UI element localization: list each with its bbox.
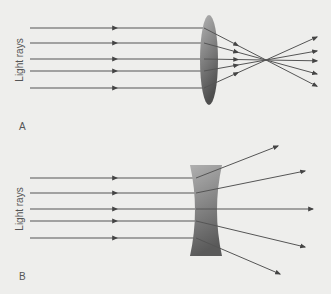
diverging-ray	[196, 146, 278, 178]
lens-diagram: Light rays A Light rays B	[0, 0, 331, 294]
diverging-ray	[266, 60, 317, 74]
diverging-ray	[266, 60, 317, 61]
diverging-ray	[266, 51, 317, 60]
diverging-ray	[266, 60, 317, 86]
diverging-ray	[266, 37, 317, 60]
light-rays-label-b: Light rays	[14, 187, 25, 230]
panel-letter-a: A	[19, 121, 26, 132]
panel-b: Light rays B	[14, 146, 313, 282]
light-rays-label-a: Light rays	[14, 38, 25, 81]
refracted-ray	[238, 46, 266, 60]
convex-lens	[200, 15, 218, 105]
panel-letter-b: B	[19, 271, 26, 282]
refracted-ray	[238, 60, 266, 73]
refracted-ray	[238, 52, 266, 60]
refracted-ray-arrow	[204, 59, 238, 60]
refracted-rays-a	[204, 28, 317, 88]
panel-a: Light rays A	[14, 15, 317, 132]
incoming-rays-b	[30, 178, 196, 238]
incoming-rays-a	[30, 28, 204, 88]
refracted-ray	[238, 60, 266, 65]
